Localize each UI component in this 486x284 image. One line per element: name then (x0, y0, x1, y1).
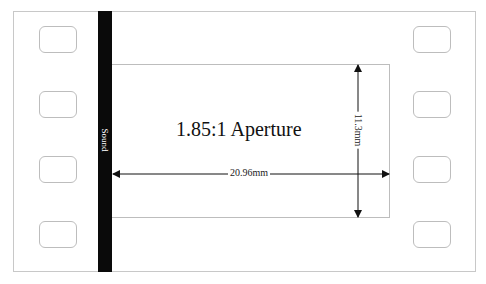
film-frame-diagram: Sound 1.85:1 Aperture 20.96mm 11.3mm (0, 0, 486, 284)
diagram-title: 1.85:1 Aperture (176, 118, 302, 141)
width-dimension-label: 20.96mm (228, 167, 270, 178)
dimension-arrows (0, 0, 486, 284)
height-dimension-label: 11.3mm (353, 112, 364, 149)
